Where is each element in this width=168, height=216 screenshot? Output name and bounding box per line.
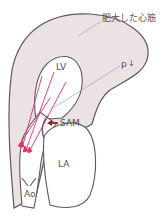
- label-ao: Ao: [24, 190, 36, 199]
- pressure-down-arrow-icon: ↓: [128, 60, 135, 68]
- label-pressure: p: [121, 60, 127, 69]
- heart-diagram: [0, 0, 168, 216]
- label-lv: LV: [56, 63, 66, 72]
- left-atrium: [43, 123, 95, 208]
- label-sam: SAM: [60, 119, 80, 128]
- label-la: LA: [58, 160, 69, 169]
- label-hypertrophied-myocardium: 肥大した心筋: [102, 14, 156, 23]
